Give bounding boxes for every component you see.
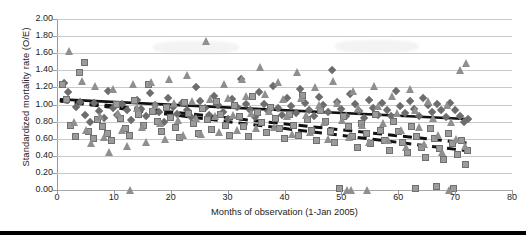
data-point-square [454,151,461,158]
data-point-triangle [202,37,210,45]
data-point-triangle [197,130,205,138]
y-tick-mark [52,139,57,140]
data-point-triangle [434,131,442,139]
data-point-triangle [429,114,437,122]
y-tick-mark [52,19,57,20]
data-point-triangle [133,104,141,112]
data-point-triangle [192,114,200,122]
data-point-square [345,123,352,130]
data-point-square [462,161,469,168]
data-point-triangle [424,97,432,105]
data-point-triangle [293,68,301,76]
data-point-triangle [233,126,241,134]
data-point-triangle [114,109,122,117]
data-point-triangle [370,82,378,90]
data-point-square [354,144,361,151]
data-point-triangle [452,135,460,143]
data-point-square [199,105,206,112]
data-point-triangle [188,97,196,105]
data-point-square [231,102,238,109]
y-tick-mark [52,156,57,157]
data-point-triangle [123,142,131,150]
y-tick-label: 1.40 [7,65,53,74]
data-point-triangle [402,143,410,151]
data-point-triangle [247,109,255,117]
data-point-triangle [96,112,104,120]
x-tick-mark [171,190,172,195]
plot-area [57,19,512,190]
data-point-square [445,130,452,137]
data-point-triangle [311,83,319,91]
data-point-square [386,147,393,154]
data-point-triangle [447,118,455,126]
data-point-square [372,111,379,118]
x-tick-mark [228,190,229,195]
data-point-triangle [443,101,451,109]
data-point-square [440,156,447,163]
data-point-triangle [100,133,108,141]
data-point-triangle [78,77,86,85]
data-point-triangle [138,123,146,131]
data-point-triangle [406,85,414,93]
data-point-triangle [165,75,173,83]
y-tick-mark [52,173,57,174]
data-point-triangle [183,71,191,79]
data-point-triangle [354,104,362,112]
data-point-triangle [279,95,287,103]
data-point-square [59,81,66,88]
x-tick-mark [114,190,115,195]
data-point-square [290,122,297,129]
y-tick-label: 0.40 [7,151,53,160]
data-point-triangle [224,94,232,102]
data-point-triangle [283,112,291,120]
data-point-triangle [220,80,228,88]
data-point-square [131,97,138,104]
data-point-triangle [349,87,357,95]
y-tick-label: 2.00 [7,14,53,23]
data-point-square [413,133,420,140]
data-point-triangle [91,82,99,90]
data-point-triangle [179,131,187,139]
y-tick-label: 1.00 [7,100,53,109]
data-point-triangle [411,106,419,114]
data-point-square [81,59,88,66]
y-tick-mark [52,70,57,71]
data-point-triangle [379,119,387,127]
data-point-triangle [384,136,392,144]
data-point-triangle [388,92,396,100]
data-point-triangle [302,111,310,119]
data-point-triangle [170,99,178,107]
data-point-square [313,137,320,144]
data-point-square [412,185,419,192]
data-point-triangle [118,126,126,134]
data-point-square [408,123,415,130]
data-point-triangle [211,112,219,120]
data-point-square [113,101,120,108]
data-point-square [422,154,429,161]
data-point-triangle [105,148,113,156]
data-point-square [204,116,211,123]
data-point-square [149,108,156,115]
data-point-triangle [462,59,470,67]
data-point-triangle [315,101,323,109]
data-point-square [76,69,83,76]
data-point-square [172,124,179,131]
data-point-triangle [365,138,373,146]
y-tick-label: 0.20 [7,168,53,177]
data-point-square [390,118,397,125]
data-point-square [263,129,270,136]
data-point-triangle [215,128,223,136]
data-point-triangle [82,126,90,134]
data-point-triangle [238,75,246,83]
data-point-square [185,110,192,117]
data-point-triangle [345,133,353,141]
data-point-square [433,183,440,190]
x-tick-mark [455,190,456,195]
x-axis-title: Months of observation (1-Jan 2005) [57,207,512,217]
data-point-triangle [338,116,346,124]
data-point-triangle [397,126,405,134]
data-point-triangle [274,78,282,86]
data-point-triangle [70,118,78,126]
x-axis-tick-labels: 01020304050607080 [0,193,526,207]
data-point-square [363,130,370,137]
